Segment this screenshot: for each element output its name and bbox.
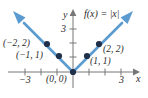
y-tick-label-3: 3 xyxy=(61,24,66,34)
point-label-neg1-1: (−1, 1) xyxy=(16,51,43,61)
x-tick-label-positive-3: 3 xyxy=(119,75,124,85)
point-label-1-1: (1, 1) xyxy=(90,57,111,67)
absolute-value-graph-figure: f(x) = |x| y x −3 3 3 (−2, 2) (−1, 1) (0… xyxy=(0,0,148,98)
point-marker xyxy=(70,69,76,75)
x-tick-label-negative-3: −3 xyxy=(19,75,31,85)
point-label-neg2-2: (−2, 2) xyxy=(3,39,30,49)
point-label-0-0: (0, 0) xyxy=(46,75,67,85)
x-axis-label: x xyxy=(136,74,140,84)
point-label-2-2: (2, 2) xyxy=(103,45,124,55)
y-axis-label: y xyxy=(63,10,67,20)
function-label: f(x) = |x| xyxy=(84,9,120,19)
point-marker xyxy=(56,53,62,59)
y-axis-arrow-icon xyxy=(70,9,77,16)
point-marker xyxy=(96,41,102,47)
point-marker xyxy=(44,41,50,47)
